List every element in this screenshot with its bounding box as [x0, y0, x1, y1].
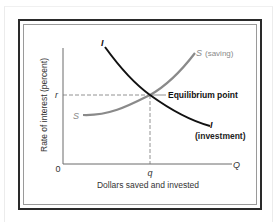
investment-curve [105, 47, 210, 126]
chart-canvas: r q 0 Q S S (saving) I I (investment) Eq… [0, 0, 278, 224]
x-axis-end-label: Q [233, 160, 240, 170]
investment-curve-end-label: I [210, 120, 213, 130]
investment-curve-start-label: I [101, 38, 104, 48]
saving-curve-start-label: S [73, 111, 79, 121]
saving-legend-label: (saving) [205, 49, 234, 58]
investment-legend-label: (investment) [195, 131, 246, 141]
x-tick-q: q [147, 168, 152, 178]
y-axis-title: Rate of interest (percent) [39, 58, 49, 152]
saving-curve [83, 53, 195, 115]
equilibrium-annotation: Equilibrium point [168, 90, 238, 100]
saving-curve-end-label: S [196, 48, 202, 58]
x-axis-title: Dollars saved and invested [97, 180, 199, 190]
origin-label: 0 [55, 164, 60, 174]
y-tick-r: r [55, 90, 59, 100]
